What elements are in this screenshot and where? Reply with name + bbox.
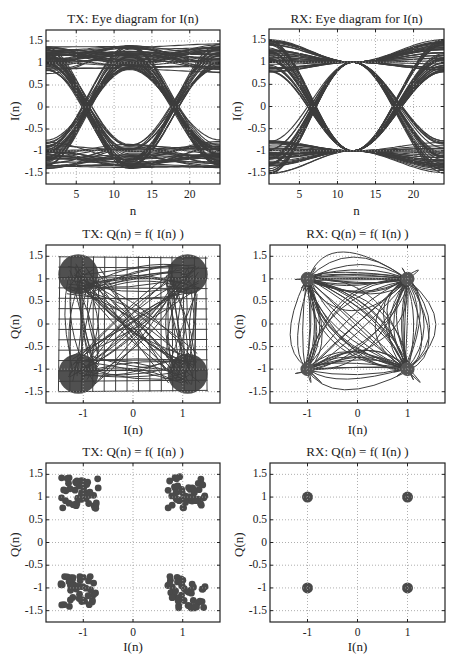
y-tick-label: -1 — [236, 362, 267, 374]
panel-title: TX: Eye diagram for I(n) — [46, 11, 220, 27]
y-tick-label: 0.5 — [236, 294, 267, 306]
x-tick-label: 1 — [398, 626, 418, 638]
y-tick-label: 0 — [236, 317, 267, 329]
y-tick-label: 1.5 — [12, 249, 43, 261]
y-tick-label: -0.5 — [236, 340, 267, 352]
x-tick-label: 10 — [104, 188, 124, 200]
y-tick-label: 1.5 — [235, 33, 266, 45]
x-tick-label: -1 — [73, 626, 93, 638]
y-tick-label: -1.5 — [12, 166, 43, 178]
y-tick-label: 1 — [12, 490, 43, 502]
x-tick-label: -1 — [298, 407, 318, 419]
x-tick-label: 15 — [142, 188, 162, 200]
x-axis-label: I(n) — [46, 422, 220, 438]
y-tick-label: 1.5 — [12, 467, 43, 479]
x-tick-label: 1 — [173, 626, 193, 638]
y-tick-label: -0.5 — [235, 122, 266, 134]
panel-tx-iq-trace — [46, 245, 220, 403]
y-tick-label: -1 — [235, 144, 266, 156]
x-axis-label: n — [46, 203, 220, 219]
x-axis-label: I(n) — [46, 639, 220, 655]
panel-title: RX: Eye diagram for I(n) — [269, 11, 444, 27]
x-axis-label: I(n) — [270, 422, 445, 438]
panel-rx-eye — [269, 29, 444, 184]
x-tick-label: 0 — [348, 407, 368, 419]
y-tick-label: 1 — [235, 55, 266, 67]
y-tick-label: -1 — [12, 362, 43, 374]
y-tick-label: -1.5 — [12, 604, 43, 616]
x-tick-label: 5 — [66, 188, 86, 200]
y-tick-label: 1 — [12, 56, 43, 68]
y-tick-label: -1.5 — [235, 166, 266, 178]
y-tick-label: 1.5 — [236, 467, 267, 479]
y-tick-label: 0 — [236, 536, 267, 548]
x-tick-label: -1 — [73, 407, 93, 419]
x-tick-label: 0 — [123, 626, 143, 638]
y-tick-label: -1 — [12, 144, 43, 156]
x-tick-label: 20 — [180, 188, 200, 200]
y-tick-label: 0.5 — [12, 513, 43, 525]
y-tick-label: 1 — [236, 272, 267, 284]
y-tick-label: -0.5 — [12, 558, 43, 570]
x-tick-label: 10 — [327, 188, 347, 200]
x-tick-label: 0 — [348, 626, 368, 638]
panel-tx-constellation — [46, 463, 220, 622]
tx-constellation-plot — [46, 463, 220, 622]
y-tick-label: 0.5 — [235, 77, 266, 89]
x-axis-label: I(n) — [270, 639, 445, 655]
y-tick-label: 0 — [235, 100, 266, 112]
y-tick-label: -0.5 — [12, 340, 43, 352]
y-tick-label: 0 — [12, 100, 43, 112]
y-tick-label: 0.5 — [236, 513, 267, 525]
x-tick-label: 20 — [404, 188, 424, 200]
panel-title: TX: Q(n) = f( I(n) ) — [46, 444, 220, 460]
panel-title: RX: Q(n) = f( I(n) ) — [270, 444, 445, 460]
y-tick-label: 1.5 — [236, 249, 267, 261]
x-axis-label: n — [269, 203, 444, 219]
y-tick-label: -1 — [12, 581, 43, 593]
panel-tx-eye — [46, 30, 220, 184]
tx-eye-plot — [46, 30, 220, 184]
y-tick-label: -1.5 — [12, 385, 43, 397]
x-tick-label: 0 — [123, 407, 143, 419]
x-tick-label: 15 — [366, 188, 386, 200]
panel-rx-iq-trace — [270, 245, 445, 403]
rx-eye-plot — [269, 29, 444, 184]
x-tick-label: 1 — [173, 407, 193, 419]
y-tick-label: -1.5 — [236, 604, 267, 616]
y-tick-label: 0 — [12, 317, 43, 329]
x-tick-label: 1 — [398, 407, 418, 419]
panel-title: RX: Q(n) = f( I(n) ) — [270, 226, 445, 242]
tx-iq-trace-plot — [46, 245, 220, 403]
y-tick-label: 0.5 — [12, 294, 43, 306]
y-tick-label: -0.5 — [236, 558, 267, 570]
y-tick-label: 1 — [236, 490, 267, 502]
y-tick-label: 0.5 — [12, 78, 43, 90]
y-tick-label: -0.5 — [12, 122, 43, 134]
x-tick-label: 5 — [289, 188, 309, 200]
y-tick-label: -1 — [236, 581, 267, 593]
y-tick-label: 1.5 — [12, 34, 43, 46]
panel-rx-constellation — [270, 463, 445, 622]
y-tick-label: 1 — [12, 272, 43, 284]
x-tick-label: -1 — [298, 626, 318, 638]
y-tick-label: 0 — [12, 536, 43, 548]
panel-title: TX: Q(n) = f( I(n) ) — [46, 226, 220, 242]
rx-constellation-plot — [270, 463, 445, 622]
rx-iq-trace-plot — [270, 245, 445, 403]
y-tick-label: -1.5 — [236, 385, 267, 397]
